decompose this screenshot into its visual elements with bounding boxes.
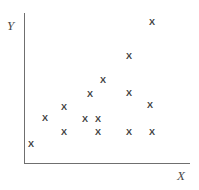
scatter-plot: Y X XXXXXXXXXXXXXXX <box>0 0 199 190</box>
data-point-marker: X <box>126 52 132 61</box>
x-axis-line <box>24 163 190 164</box>
data-point-marker: X <box>61 128 67 137</box>
data-point-marker: X <box>149 128 155 137</box>
data-point-marker: X <box>126 128 132 137</box>
data-point-marker: X <box>95 115 101 124</box>
data-point-marker: X <box>95 128 101 137</box>
y-axis-line <box>24 13 25 163</box>
x-axis-label: X <box>177 169 185 182</box>
data-point-marker: X <box>61 103 67 112</box>
data-point-marker: X <box>126 89 132 98</box>
data-point-marker: X <box>147 101 153 110</box>
data-point-marker: X <box>28 140 34 149</box>
data-point-marker: X <box>42 114 48 123</box>
data-point-marker: X <box>149 18 155 27</box>
data-point-marker: X <box>87 90 93 99</box>
data-point-marker: X <box>100 76 106 85</box>
y-axis-label: Y <box>7 19 14 32</box>
data-point-marker: X <box>82 115 88 124</box>
